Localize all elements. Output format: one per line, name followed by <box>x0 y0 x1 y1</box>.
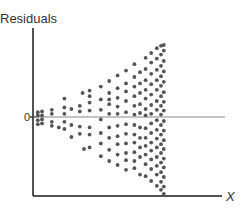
data-point <box>159 53 163 57</box>
data-point <box>162 59 166 63</box>
data-point <box>138 70 142 74</box>
data-point <box>50 108 54 112</box>
data-point <box>78 110 82 114</box>
data-point <box>70 123 74 127</box>
data-point <box>99 131 103 135</box>
data-point <box>107 136 111 140</box>
data-point <box>133 133 137 137</box>
y-axis-label: Residuals <box>0 11 58 26</box>
data-point <box>149 179 153 183</box>
data-point <box>116 74 120 78</box>
data-point <box>50 124 54 128</box>
data-point <box>138 102 142 106</box>
data-point <box>133 104 137 108</box>
data-point <box>162 119 166 123</box>
data-point <box>159 151 163 155</box>
data-point <box>155 108 159 112</box>
data-point <box>162 175 166 179</box>
data-point <box>107 98 111 102</box>
data-point <box>162 70 166 74</box>
data-point <box>36 122 40 126</box>
data-point <box>36 118 40 122</box>
data-point <box>107 91 111 95</box>
data-point <box>144 56 148 60</box>
data-point <box>116 134 120 138</box>
data-point <box>162 138 166 142</box>
data-point <box>149 61 153 65</box>
data-point <box>40 118 44 122</box>
data-point <box>159 84 163 88</box>
data-point <box>159 113 163 117</box>
data-point <box>88 146 92 150</box>
data-point <box>138 136 142 140</box>
data-point <box>144 126 148 130</box>
data-point <box>144 153 148 157</box>
data-point <box>138 146 142 150</box>
data-point <box>162 49 166 53</box>
data-point <box>155 57 159 61</box>
data-point <box>116 86 120 90</box>
data-point <box>99 118 103 122</box>
data-point <box>124 158 128 162</box>
data-point <box>133 166 137 170</box>
data-point <box>99 154 103 158</box>
data-point <box>144 162 148 166</box>
data-point <box>40 122 44 126</box>
data-point <box>124 132 128 136</box>
data-point <box>144 136 148 140</box>
data-point <box>155 118 159 122</box>
y-tick-label-zero: 0 <box>24 111 30 123</box>
data-point <box>155 137 159 141</box>
data-point <box>159 64 163 68</box>
data-point <box>162 43 166 47</box>
data-point <box>124 110 128 114</box>
data-point <box>124 168 128 172</box>
data-point <box>124 90 128 94</box>
data-point <box>155 68 159 72</box>
data-point <box>99 142 103 146</box>
data-point <box>133 113 137 117</box>
data-point <box>116 142 120 146</box>
data-point <box>144 78 148 82</box>
data-point <box>88 94 92 98</box>
data-point <box>36 114 40 118</box>
data-point <box>70 135 74 139</box>
data-point <box>116 153 120 157</box>
data-point <box>133 159 137 163</box>
data-point <box>70 107 74 111</box>
data-point <box>124 142 128 146</box>
data-point <box>144 144 148 148</box>
data-points <box>36 43 166 196</box>
data-point <box>63 97 67 101</box>
data-point <box>107 112 111 116</box>
data-point <box>138 173 142 177</box>
data-point <box>162 100 166 104</box>
data-point <box>81 91 85 95</box>
data-point <box>116 96 120 100</box>
data-point <box>159 104 163 108</box>
data-point <box>155 164 159 168</box>
data-point <box>116 112 120 116</box>
data-point <box>159 170 163 174</box>
data-point <box>138 126 142 130</box>
data-point <box>107 102 111 106</box>
data-point <box>116 163 120 167</box>
data-point <box>149 131 153 135</box>
data-point <box>107 79 111 83</box>
data-point <box>149 149 153 153</box>
data-point <box>133 150 137 154</box>
data-point <box>99 98 103 102</box>
data-point <box>138 155 142 159</box>
data-point <box>88 101 92 105</box>
data-point <box>133 62 137 66</box>
data-point <box>88 133 92 137</box>
data-point <box>88 89 92 93</box>
data-point <box>162 129 166 133</box>
data-point <box>88 109 92 113</box>
data-point <box>99 85 103 89</box>
data-point <box>155 173 159 177</box>
data-point <box>144 67 148 71</box>
data-point <box>138 91 142 95</box>
data-point <box>63 120 67 124</box>
data-point <box>159 123 163 127</box>
